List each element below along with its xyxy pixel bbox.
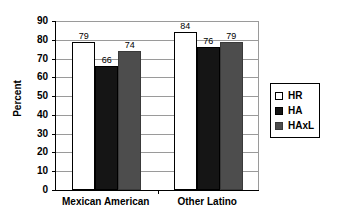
y-axis-tick-labels: 9080706050403020100 xyxy=(18,16,48,190)
y-tick-label-90: 90 xyxy=(18,16,48,26)
y-tick-mark-80 xyxy=(52,40,56,41)
y-tick-label-0: 0 xyxy=(18,185,48,195)
bar-haxl-0 xyxy=(118,51,141,190)
y-tick-mark-70 xyxy=(52,59,56,60)
bar-value-hr-1: 84 xyxy=(168,21,203,31)
bar-hr-1 xyxy=(174,32,197,190)
legend-item-haxl[interactable]: HAxL xyxy=(275,118,314,133)
plot-frame-right xyxy=(258,21,259,190)
x-axis-label-0: Mexican American xyxy=(55,196,157,207)
y-tick-mark-0 xyxy=(52,190,56,191)
y-tick-mark-10 xyxy=(52,171,56,172)
legend-swatch-ha-icon xyxy=(275,107,283,115)
legend-label-ha: HA xyxy=(288,106,302,116)
bar-ha-0 xyxy=(95,66,118,190)
bar-value-haxl-1: 79 xyxy=(214,31,249,41)
x-axis-divider-1 xyxy=(158,190,159,194)
legend-label-haxl: HAxL xyxy=(288,121,314,131)
y-tick-label-50: 50 xyxy=(18,91,48,101)
y-tick-label-40: 40 xyxy=(18,110,48,120)
legend-item-ha[interactable]: HA xyxy=(275,103,314,118)
legend-label-hr: HR xyxy=(288,91,302,101)
y-tick-mark-30 xyxy=(52,134,56,135)
bar-value-haxl-0: 74 xyxy=(112,40,147,50)
legend-swatch-haxl-icon xyxy=(275,122,283,130)
y-tick-label-30: 30 xyxy=(18,129,48,139)
x-axis-label-1: Other Latino xyxy=(157,196,259,207)
y-tick-mark-40 xyxy=(52,115,56,116)
chart-legend: HRHAHAxL xyxy=(270,83,320,138)
y-tick-label-80: 80 xyxy=(18,35,48,45)
y-tick-label-20: 20 xyxy=(18,147,48,157)
y-tick-mark-50 xyxy=(52,96,56,97)
y-tick-mark-90 xyxy=(52,21,56,22)
bar-haxl-1 xyxy=(220,42,243,190)
y-tick-mark-20 xyxy=(52,152,56,153)
y-tick-label-60: 60 xyxy=(18,72,48,82)
y-tick-mark-60 xyxy=(52,77,56,78)
legend-swatch-hr-icon xyxy=(275,92,283,100)
y-tick-label-70: 70 xyxy=(18,54,48,64)
bar-chart: Percent 9080706050403020100 796674847679… xyxy=(0,0,341,223)
plot-area: 796674847679 xyxy=(55,21,259,191)
bar-ha-1 xyxy=(197,47,220,190)
y-tick-label-10: 10 xyxy=(18,166,48,176)
bar-value-hr-0: 79 xyxy=(66,31,101,41)
legend-item-hr[interactable]: HR xyxy=(275,88,314,103)
plot-frame-top xyxy=(56,21,259,22)
